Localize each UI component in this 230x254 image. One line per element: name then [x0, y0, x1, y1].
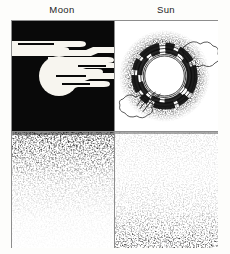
cloud-notch [78, 65, 106, 67]
moon-ground-art [12, 132, 114, 248]
sun-ground-art [115, 132, 218, 248]
panel-moon-ground [12, 131, 114, 248]
cloud-notch [62, 83, 90, 85]
caption-moon: Moon [11, 4, 113, 15]
cloud-notch [56, 75, 86, 77]
sun-sky-art [115, 21, 218, 131]
moon-ground-top-edge [12, 132, 114, 135]
cloud-notch [18, 43, 54, 45]
panel-sun-ground [114, 131, 218, 248]
panel-sun-sky [114, 21, 218, 131]
sun-ground-fade-mask [115, 132, 218, 248]
figure-plate [11, 20, 218, 248]
panel-moon-sky [12, 21, 114, 131]
figure-root: Moon Sun [0, 0, 230, 254]
sun-ground-top-edge [115, 132, 218, 134]
caption-sun: Sun [114, 4, 218, 15]
moon-ground-fade-mask [12, 132, 114, 248]
moon-sky-art [12, 21, 114, 131]
